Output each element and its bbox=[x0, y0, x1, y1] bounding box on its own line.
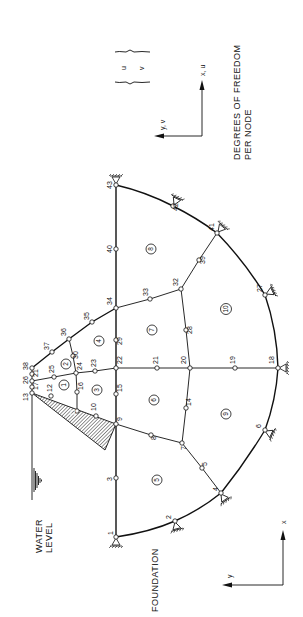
svg-text:19: 19 bbox=[229, 356, 236, 364]
svg-text:5: 5 bbox=[201, 462, 208, 466]
water-label-line1: WATER bbox=[34, 519, 44, 553]
global-y-label: y bbox=[226, 574, 234, 578]
dof-x-label: x, u bbox=[199, 65, 206, 76]
svg-text:37: 37 bbox=[43, 342, 50, 350]
svg-text:2: 2 bbox=[62, 362, 69, 366]
svg-text:32: 32 bbox=[172, 278, 179, 286]
dof-v: v bbox=[138, 66, 145, 70]
svg-text:18: 18 bbox=[268, 356, 275, 364]
svg-text:34: 34 bbox=[106, 297, 113, 305]
dof-legend: DEGREES OF FREEDOM PER NODE u v x, u y, … bbox=[115, 44, 253, 160]
svg-text:6: 6 bbox=[255, 424, 262, 428]
svg-text:11: 11 bbox=[69, 409, 76, 416]
water-label-line2: LEVEL bbox=[44, 522, 54, 553]
svg-text:42: 42 bbox=[172, 203, 179, 211]
svg-text:4: 4 bbox=[95, 339, 102, 343]
supports bbox=[109, 174, 289, 548]
svg-text:10: 10 bbox=[90, 403, 97, 411]
svg-text:29: 29 bbox=[116, 337, 123, 345]
dof-brace-left bbox=[115, 50, 150, 52]
svg-text:35: 35 bbox=[83, 312, 90, 320]
svg-text:4: 4 bbox=[212, 487, 219, 491]
svg-text:16: 16 bbox=[77, 382, 84, 390]
svg-text:15: 15 bbox=[116, 384, 123, 392]
svg-text:23: 23 bbox=[90, 359, 97, 367]
svg-text:10: 10 bbox=[222, 305, 229, 313]
node-labels: 1 2 3 4 5 6 7 8 9 10 11 12 13 14 15 16 1… bbox=[22, 181, 275, 535]
svg-text:3: 3 bbox=[93, 388, 100, 392]
svg-text:7: 7 bbox=[180, 446, 187, 450]
svg-text:20: 20 bbox=[180, 356, 187, 364]
support-icon bbox=[262, 425, 277, 442]
dof-title-line2: PER NODE bbox=[243, 109, 253, 160]
svg-text:6: 6 bbox=[150, 398, 157, 402]
dof-y-arrow-icon bbox=[154, 134, 164, 139]
svg-text:9: 9 bbox=[222, 412, 229, 416]
dof-u: u bbox=[120, 66, 127, 70]
svg-text:21: 21 bbox=[32, 369, 39, 377]
svg-text:21: 21 bbox=[152, 356, 159, 364]
svg-text:5: 5 bbox=[153, 478, 160, 482]
svg-text:22: 22 bbox=[116, 356, 123, 364]
svg-text:28: 28 bbox=[186, 326, 193, 334]
svg-text:1: 1 bbox=[60, 383, 67, 387]
element-11-hatched bbox=[32, 393, 116, 450]
svg-text:17: 17 bbox=[32, 382, 39, 390]
dof-x-arrow-icon bbox=[200, 80, 205, 90]
svg-text:43: 43 bbox=[106, 181, 113, 189]
svg-text:7: 7 bbox=[148, 328, 155, 332]
element-labels: 1 2 3 4 5 6 7 8 9 10 bbox=[59, 244, 232, 485]
svg-text:24: 24 bbox=[76, 362, 83, 370]
svg-text:8: 8 bbox=[150, 436, 157, 440]
svg-text:12: 12 bbox=[46, 384, 53, 392]
svg-text:25: 25 bbox=[48, 365, 55, 373]
svg-text:1: 1 bbox=[107, 531, 114, 535]
svg-text:9: 9 bbox=[116, 417, 123, 421]
svg-text:14: 14 bbox=[185, 398, 192, 406]
dof-brace-right bbox=[115, 82, 150, 84]
svg-text:26: 26 bbox=[22, 376, 29, 384]
dof-title-line1: DEGREES OF FREEDOM bbox=[232, 44, 242, 160]
water-level: WATER LEVEL bbox=[32, 393, 54, 553]
svg-text:33: 33 bbox=[142, 288, 149, 296]
foundation-label: FOUNDATION bbox=[150, 548, 160, 612]
svg-text:3: 3 bbox=[106, 477, 113, 481]
svg-text:39: 39 bbox=[199, 256, 206, 264]
y-arrow-icon bbox=[222, 583, 232, 588]
svg-text:38: 38 bbox=[22, 362, 29, 370]
dam-finite-element-mesh: DEGREES OF FREEDOM PER NODE u v x, u y, … bbox=[0, 0, 303, 617]
support-icon bbox=[215, 490, 232, 506]
x-arrow-icon bbox=[281, 530, 286, 540]
svg-text:13: 13 bbox=[22, 393, 29, 401]
global-axes: x y bbox=[222, 520, 287, 588]
svg-text:36: 36 bbox=[60, 328, 67, 336]
water-symbol-icon bbox=[34, 468, 42, 492]
svg-text:27: 27 bbox=[256, 284, 263, 292]
global-x-label: x bbox=[280, 520, 287, 524]
svg-text:2: 2 bbox=[165, 515, 172, 519]
dof-y-label: y, v bbox=[159, 119, 167, 130]
svg-text:8: 8 bbox=[147, 247, 154, 251]
svg-text:40: 40 bbox=[106, 245, 113, 253]
svg-text:41: 41 bbox=[208, 223, 215, 231]
svg-text:30: 30 bbox=[72, 351, 79, 359]
